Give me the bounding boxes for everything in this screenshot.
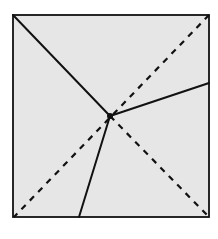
folding-diagram xyxy=(0,0,218,239)
junction-point xyxy=(107,113,113,119)
